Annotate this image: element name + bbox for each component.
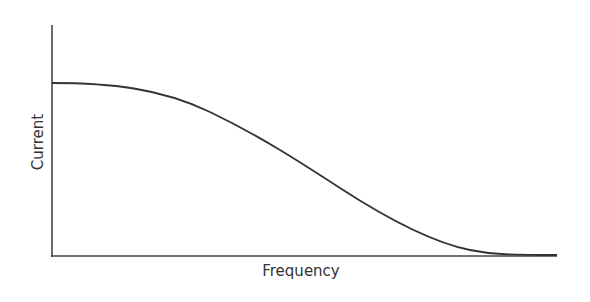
response-curve bbox=[52, 83, 557, 255]
plot-area bbox=[0, 0, 590, 302]
x-axis-label: Frequency bbox=[0, 262, 590, 280]
y-axis-label: Current bbox=[29, 114, 47, 170]
chart-canvas: Frequency Current bbox=[0, 0, 590, 302]
